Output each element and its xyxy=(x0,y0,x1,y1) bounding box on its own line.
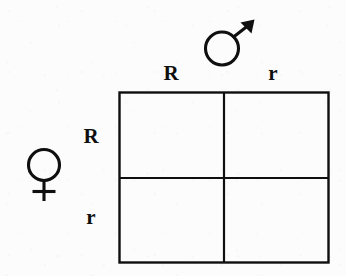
punnett-cells xyxy=(120,93,328,262)
row-header-allele-1: R xyxy=(72,126,110,147)
punnett-cell-r1-c0 xyxy=(120,178,224,262)
column-header-allele-2: r xyxy=(254,63,292,84)
column-header-allele-1: R xyxy=(152,63,190,84)
punnett-cell-r0-c0 xyxy=(120,93,224,178)
punnett-square-canvas xyxy=(0,0,346,276)
venus-symbol-icon xyxy=(29,150,60,202)
punnett-cell-r0-c1 xyxy=(224,93,328,178)
mars-symbol-icon xyxy=(206,25,250,66)
punnett-cell-r1-c1 xyxy=(224,178,328,262)
row-header-allele-2: r xyxy=(72,207,110,228)
punnett-square-figure: R r R r xyxy=(0,0,346,276)
